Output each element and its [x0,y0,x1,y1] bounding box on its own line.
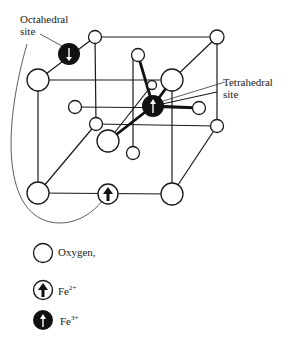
legend-fe2-icon [34,281,53,300]
octahedral-label-line2: site [20,25,68,37]
legend-fe3-charge: 3+ [71,314,78,322]
octahedral-label: Octahedral site [20,13,68,37]
legend-fe2-label: Fe2+ [58,284,76,297]
tetrahedral-label-line2: site [223,88,273,100]
fe2-atom [98,184,118,204]
oxygen-atoms [27,30,224,205]
tetrahedral-fe3-atom [142,95,164,117]
legend-oxygen-label: Oxygen, [58,246,96,258]
legend-fe3-text: Fe [60,315,71,327]
octahedral-fe3-atom [58,43,80,65]
spinel-unit-cell-diagram [0,0,296,342]
tetrahedral-label-line1: Tetrahedral [223,76,273,88]
legend-fe2-charge: 2+ [69,284,76,292]
octahedral-label-line1: Octahedral [20,13,68,25]
legend-fe3-icon [33,310,53,330]
legend-oxygen-icon [34,244,53,263]
legend-fe2-text: Fe [58,285,69,297]
tetrahedral-label: Tetrahedral site [223,76,273,100]
legend-fe3-label: Fe3+ [60,314,78,327]
